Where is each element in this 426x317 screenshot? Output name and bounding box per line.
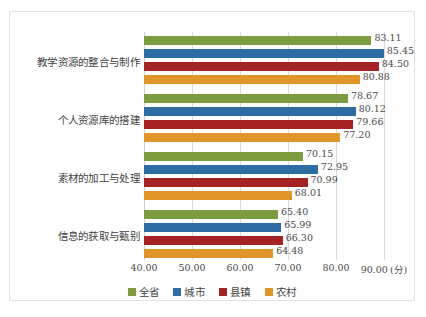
- bar-row: 65.40: [144, 210, 421, 219]
- x-tick-label: 40.00: [130, 262, 157, 273]
- bar-row: 84.50: [144, 62, 421, 71]
- bar-value-label: 77.20: [343, 129, 370, 140]
- bar-row: 66.30: [144, 236, 421, 245]
- bar-value-label: 78.67: [351, 90, 378, 101]
- bar-row: 68.01: [144, 191, 421, 200]
- legend-swatch-icon: [265, 288, 273, 296]
- value-axis: 40.00 50.00 60.00 70.00 80.00 90.00(分): [144, 262, 426, 278]
- bar-chengshi[interactable]: [144, 107, 356, 116]
- x-tick-label: 80.00: [322, 262, 349, 273]
- category-label: 个人资源库的搭建: [58, 112, 140, 127]
- legend: 全省 城市 县镇 农村: [10, 284, 414, 299]
- bar-value-label: 64.48: [276, 245, 303, 256]
- bar-value-label: 65.40: [281, 206, 308, 217]
- bar-nongcun[interactable]: [144, 75, 360, 84]
- x-tick-label: 50.00: [178, 262, 205, 273]
- bar-row: 77.20: [144, 133, 421, 142]
- bar-group: 65.40 65.99 66.30 64.48: [144, 210, 421, 258]
- legend-label: 城市: [184, 284, 205, 299]
- legend-swatch-icon: [128, 288, 136, 296]
- bar-value-label: 83.11: [374, 32, 401, 43]
- bar-value-label: 85.45: [387, 45, 414, 56]
- bar-quansheng[interactable]: [144, 36, 371, 45]
- bar-value-label: 70.99: [311, 174, 338, 185]
- bar-nongcun[interactable]: [144, 133, 340, 142]
- bar-value-label: 66.30: [286, 232, 313, 243]
- bar-chengshi[interactable]: [144, 223, 281, 232]
- bar-xianzhen[interactable]: [144, 120, 353, 129]
- bar-value-label: 80.88: [363, 71, 390, 82]
- x-tick-label: 90.00(分): [361, 262, 408, 276]
- bar-xianzhen[interactable]: [144, 236, 283, 245]
- bar-value-label: 65.99: [284, 219, 311, 230]
- x-tick-label: 70.00: [274, 262, 301, 273]
- category-label: 信息的获取与甄别: [58, 228, 140, 243]
- bar-value-label: 68.01: [295, 187, 322, 198]
- category-label: 教学资源的整合与制作: [37, 54, 140, 69]
- bar-group: 83.11 85.45 84.50 80.88: [144, 36, 421, 84]
- category-axis: 教学资源的整合与制作 个人资源库的搭建 素材的加工与处理 信息的获取与甄别: [16, 32, 142, 260]
- legend-label: 县镇: [230, 284, 251, 299]
- bar-quansheng[interactable]: [144, 210, 278, 219]
- axis-unit-label: (分): [390, 264, 407, 275]
- bar-xianzhen[interactable]: [144, 62, 379, 71]
- bar-chengshi[interactable]: [144, 165, 318, 174]
- bar-value-label: 80.12: [359, 103, 386, 114]
- bar-group: 70.15 72.95 70.99 68.01: [144, 152, 421, 200]
- bar-row: 80.88: [144, 75, 421, 84]
- bar-row: 72.95: [144, 165, 421, 174]
- legend-label: 农村: [276, 284, 297, 299]
- bar-xianzhen[interactable]: [144, 178, 308, 187]
- bar-row: 80.12: [144, 107, 421, 116]
- bar-group: 78.67 80.12 79.66 77.20: [144, 94, 421, 142]
- x-tick-label: 60.00: [226, 262, 253, 273]
- bar-row: 65.99: [144, 223, 421, 232]
- legend-label: 全省: [139, 284, 160, 299]
- bar-quansheng[interactable]: [144, 152, 303, 161]
- bar-quansheng[interactable]: [144, 94, 348, 103]
- bar-row: 78.67: [144, 94, 421, 103]
- legend-item-chengshi[interactable]: 城市: [173, 284, 205, 299]
- legend-item-xianzhen[interactable]: 县镇: [219, 284, 251, 299]
- bar-value-label: 84.50: [382, 58, 409, 69]
- plot-area: 83.11 85.45 84.50 80.88 78.67: [144, 32, 421, 260]
- legend-item-quansheng[interactable]: 全省: [128, 284, 160, 299]
- bar-chengshi[interactable]: [144, 49, 384, 58]
- bar-row: 83.11: [144, 36, 421, 45]
- bar-row: 79.66: [144, 120, 421, 129]
- bar-value-label: 72.95: [321, 161, 348, 172]
- legend-swatch-icon: [173, 288, 181, 296]
- legend-item-nongcun[interactable]: 农村: [265, 284, 297, 299]
- bar-row: 70.99: [144, 178, 421, 187]
- x-tick-value: 90.00: [361, 264, 388, 275]
- bar-nongcun[interactable]: [144, 191, 292, 200]
- bar-value-label: 79.66: [356, 116, 383, 127]
- bar-row: 70.15: [144, 152, 421, 161]
- bar-row: 64.48: [144, 249, 421, 258]
- bar-value-label: 70.15: [306, 148, 333, 159]
- chart-container: 83.11 85.45 84.50 80.88 78.67: [9, 11, 415, 301]
- bar-row: 85.45: [144, 49, 421, 58]
- bar-nongcun[interactable]: [144, 249, 273, 258]
- category-label: 素材的加工与处理: [58, 170, 140, 185]
- legend-swatch-icon: [219, 288, 227, 296]
